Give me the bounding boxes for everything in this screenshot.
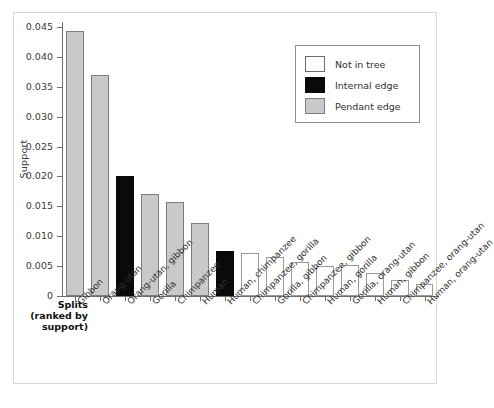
x-axis-title: Splits (ranked by support) [16,299,88,332]
legend-item-internal: Internal edge [305,76,398,94]
legend-label: Internal edge [335,80,398,91]
chart-legend: Not in treeInternal edgePendant edge [295,45,420,123]
bar [91,75,109,296]
y-tick-label: 0.045 [26,22,53,32]
y-tick-label: 0.005 [26,261,53,271]
y-tick-label: 0.040 [26,52,53,62]
y-tick-label: 0.025 [26,142,53,152]
x-axis-title-line1: Splits [16,299,88,310]
legend-item-pendant: Pendant edge [305,97,401,115]
legend-item-notin: Not in tree [305,55,385,73]
y-tick-label: 0.035 [26,82,53,92]
legend-label: Pendant edge [335,101,401,112]
legend-swatch-pendant [305,98,325,114]
bar [66,31,84,296]
x-axis-title-line3: support) [16,321,88,332]
y-tick-label: 0.015 [26,201,53,211]
legend-swatch-notin [305,56,325,72]
legend-label: Not in tree [335,59,385,70]
figure-caption-clipped [13,390,437,408]
x-axis-title-line2: (ranked by [16,310,88,321]
y-tick-label: 0.020 [26,171,53,181]
legend-swatch-internal [305,77,325,93]
y-tick-label: 0.010 [26,231,53,241]
y-tick-label: 0.030 [26,112,53,122]
